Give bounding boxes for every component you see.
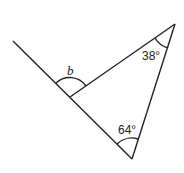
angle-b-label: b [67, 63, 74, 78]
angle-38-label: 38° [142, 49, 160, 63]
right-side-line [132, 24, 175, 159]
extended-side-line [13, 41, 132, 159]
triangle-diagram: b 38° 64° [0, 0, 184, 173]
angle-38-arc [155, 38, 168, 48]
angle-64-arc [117, 138, 138, 144]
angle-64-label: 64° [118, 123, 136, 137]
angle-b-arc [56, 78, 86, 86]
